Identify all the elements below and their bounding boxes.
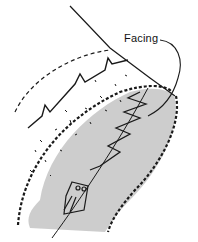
fabric-shade [28, 89, 175, 232]
garment-edge-line [70, 6, 175, 96]
sewing-diagram: Facing [0, 0, 198, 242]
facing-label: Facing [124, 32, 158, 44]
garment-illustration [0, 0, 198, 242]
